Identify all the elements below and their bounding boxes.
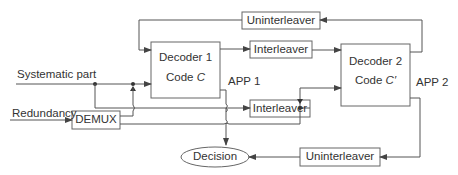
systematic-part-label: Systematic part bbox=[17, 69, 96, 81]
line-demux-to-dec1 bbox=[120, 88, 135, 116]
uninterleaver-bottom-label: Uninterleaver bbox=[300, 151, 380, 163]
decoder1-code-prefix: Code bbox=[166, 71, 197, 83]
line-app2-to-uninterleaver bbox=[380, 98, 420, 157]
interleaver-top-label: Interleaver bbox=[250, 44, 312, 56]
decoder2-name: Decoder 2 bbox=[341, 56, 410, 68]
uninterleaver-top-label: Uninterleaver bbox=[242, 15, 320, 27]
junction-dot bbox=[131, 82, 135, 86]
interleaver-mid-label: Interleaver bbox=[250, 103, 310, 115]
decoder2-code: Code C′ bbox=[341, 75, 410, 87]
decision-label: Decision bbox=[181, 151, 249, 163]
decoder1-code-symbol: C bbox=[197, 71, 205, 83]
decoder1-name: Decoder 1 bbox=[151, 52, 220, 64]
decoder2-code-symbol: C′ bbox=[386, 74, 396, 86]
decoder1-code: Code C bbox=[151, 72, 220, 84]
redundancy-label: Redundancy bbox=[12, 108, 77, 120]
diagram-canvas bbox=[0, 0, 458, 175]
app1-label: APP 1 bbox=[228, 76, 260, 88]
line-app1-to-decision bbox=[220, 90, 228, 145]
demux-label: DEMUX bbox=[72, 114, 120, 126]
app2-label: APP 2 bbox=[416, 77, 448, 89]
decoder2-code-prefix: Code bbox=[355, 74, 386, 86]
